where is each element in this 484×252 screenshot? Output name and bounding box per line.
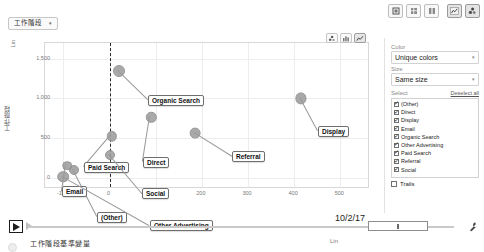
x-tick-label: 500 [335,190,344,196]
series-item-label: (Other) [401,101,418,107]
x-tick-label: 200 [196,190,205,196]
playback-bar: 10/2/17 [0,218,484,240]
y-axis-title: 工作階段 [1,38,11,198]
x-tick-label: 300 [242,190,251,196]
deselect-all-link[interactable]: Deselect all [451,90,479,96]
trails-option[interactable]: Trails [391,181,479,187]
control-panel: Color Unique colors ▾ Size Same size ▾ S… [384,38,484,213]
color-value: Unique colors [395,54,438,61]
gridline-horizontal [45,98,368,99]
export-icon[interactable] [388,4,403,18]
gridline-vertical [202,43,203,187]
color-select[interactable]: Unique colors ▾ [391,51,479,64]
series-item-label: Social [401,167,416,173]
bubble-view-icon[interactable] [326,33,338,43]
bar-view-icon[interactable] [340,33,352,43]
footer-dot [8,243,17,252]
checkbox[interactable]: ✓ [394,159,399,164]
chevron-down-icon: ▾ [472,77,475,82]
series-item-social[interactable]: ✓Social [394,166,476,174]
data-point-label[interactable]: Direct [143,157,169,168]
series-item-organic-search[interactable]: ✓Organic Search [394,133,476,141]
thumb-grip [397,224,399,229]
workspace-label: 工作階段 [14,20,42,27]
x-tick-label: 0 [107,190,110,196]
checkbox[interactable]: ✓ [394,143,399,148]
series-item-label: Paid Search [401,150,431,156]
series-item-other-advertising[interactable]: ✓Other Advertising [394,141,476,149]
chevron-down-icon: ▾ [49,21,52,26]
size-label: Size [391,66,479,72]
checkbox[interactable]: ✓ [394,167,399,172]
bubble-chart-icon[interactable] [465,4,480,18]
y-scale-toggle[interactable]: Lin [10,40,16,47]
grid-icon[interactable] [406,4,421,18]
x-tick-label: 400 [289,190,298,196]
series-item-label: Display [401,117,419,123]
series-item-direct[interactable]: ✓Direct [394,108,476,116]
series-item-paid-search[interactable]: ✓Paid Search [394,149,476,157]
chevron-down-icon: ▾ [472,55,475,60]
plot-view-toggles [326,33,366,43]
gridline-horizontal [45,59,368,60]
y-tick-label: 500 [41,134,50,140]
series-item-label: Referral [401,158,421,164]
series-item-label: Email [401,126,415,132]
trails-label: Trails [400,181,414,187]
checkbox[interactable]: ✓ [394,126,399,131]
gridline-horizontal [45,178,368,179]
y-tick-label: 1,000 [36,94,50,100]
gridline-vertical [248,43,249,187]
series-item-email[interactable]: ✓Email [394,125,476,133]
checkbox[interactable]: ✓ [394,110,399,115]
chart-area: 工作階段 Lin 工作階段基準變量 Lin 05001,0001,500-100… [0,38,378,198]
gridline-horizontal [45,138,368,139]
gridline-vertical [340,43,341,187]
color-label: Color [391,44,479,50]
y-tick-label: 0 [47,174,50,180]
motion-chart-app: 工作階段 ▾ 工作階段 Lin 工作階段基準變量 L [0,0,484,252]
data-point-label[interactable]: Social [142,188,169,199]
gridline-vertical [294,43,295,187]
y-tick-label: 1,500 [36,55,50,61]
timeline-date: 10/2/17 [335,213,365,223]
top-toolbar [388,4,480,18]
columns-icon[interactable] [424,4,439,18]
workspace-selector[interactable]: 工作階段 ▾ [8,17,58,30]
series-item-label: Organic Search [401,134,439,140]
settings-wrench-icon[interactable] [469,222,478,234]
trails-checkbox[interactable] [391,181,397,187]
series-checkbox-list[interactable]: ✓(Other)✓Direct✓Display✓Email✓Organic Se… [391,98,479,178]
size-select[interactable]: Same size ▾ [391,73,479,86]
checkbox[interactable]: ✓ [394,151,399,156]
play-icon [13,223,20,231]
series-item-display[interactable]: ✓Display [394,116,476,124]
line-view-icon[interactable] [354,33,366,43]
checkbox[interactable]: ✓ [394,134,399,139]
series-item-label: Direct [401,109,415,115]
data-point-label[interactable]: Organic Search [148,95,204,106]
data-point-label[interactable]: Referral [232,151,265,162]
chart-edit-icon[interactable] [447,4,462,18]
select-label: Select [391,90,408,96]
timeline-thumb[interactable]: 10/2/17 [368,221,428,231]
series-item-label: Other Advertising [401,142,443,148]
data-point-label[interactable]: Display [318,126,349,137]
size-value: Same size [395,76,428,83]
select-header: Select Deselect all [391,90,479,96]
play-button[interactable] [9,220,23,233]
series-item-other[interactable]: ✓(Other) [394,100,476,108]
checkbox[interactable]: ✓ [394,102,399,107]
checkbox[interactable]: ✓ [394,118,399,123]
series-item-referral[interactable]: ✓Referral [394,157,476,165]
